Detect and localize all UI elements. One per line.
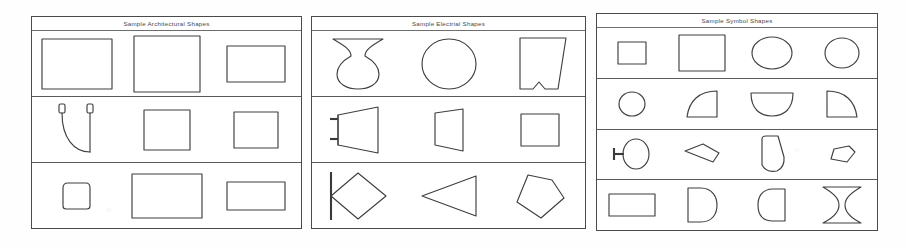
shape-cell-half-circle-down[interactable] [737, 79, 807, 129]
panel-rows-electrical [312, 31, 585, 228]
shape-cell-triangle-left[interactable] [403, 163, 494, 228]
shape-row [312, 163, 585, 228]
shape-cell-hourglass[interactable] [807, 180, 877, 230]
shape-cell-ellipse-wide[interactable] [737, 28, 807, 78]
shape-row [32, 163, 301, 228]
shape-row [312, 31, 585, 97]
shape-cell-circle-small[interactable] [597, 79, 667, 129]
shape-cell-diamond-with-bar[interactable] [312, 163, 403, 228]
shape-row [32, 97, 301, 163]
shape-cell-quarter-round-left[interactable] [667, 79, 737, 129]
shape-cell-square-medium[interactable] [122, 97, 212, 162]
shape-cell-bowtie-over-ellipse[interactable] [312, 31, 403, 96]
shape-cell-pentagon-kite[interactable] [494, 163, 585, 228]
shape-library-sheet: Sample Architectural Shapes [0, 0, 906, 250]
shape-cell-notched-rectangle[interactable] [32, 163, 122, 228]
shape-cell-ellipse[interactable] [403, 31, 494, 96]
panel-title-symbol: Sample Symbol Shapes [597, 14, 877, 28]
shape-cell-rectangle-small[interactable] [211, 31, 301, 96]
panel-rows-symbol [597, 28, 877, 230]
shape-cell-horn-with-leads[interactable] [312, 97, 403, 162]
shape-cell-ellipse-round[interactable] [807, 28, 877, 78]
shape-cell-wedge-kite[interactable] [667, 130, 737, 180]
panel-title-electrical: Sample Electrial Shapes [312, 17, 585, 31]
shape-cell-small-blob[interactable] [807, 130, 877, 180]
shape-cell-square-small[interactable] [597, 28, 667, 78]
shape-cell-d-shape-right[interactable] [667, 180, 737, 230]
shape-cell-trapezoid[interactable] [403, 97, 494, 162]
panel-symbol: Sample Symbol Shapes [596, 13, 878, 231]
shape-cell-rectangle-large[interactable] [32, 31, 122, 96]
shape-cell-notched-trapezoid[interactable] [494, 31, 585, 96]
shape-cell-square[interactable] [494, 97, 585, 162]
shape-cell-ellipse-with-stem[interactable] [597, 130, 667, 180]
shape-cell-rectangle-tall[interactable] [122, 31, 212, 96]
panel-electrical: Sample Electrial Shapes [311, 16, 586, 229]
shape-row [32, 31, 301, 97]
panel-architectural: Sample Architectural Shapes [31, 16, 302, 229]
shape-cell-rounded-wedge[interactable] [737, 130, 807, 180]
shape-row [597, 180, 877, 230]
shape-row [312, 97, 585, 163]
shape-cell-square-small[interactable] [211, 97, 301, 162]
shape-cell-d-shape-left[interactable] [737, 180, 807, 230]
shape-cell-quarter-round-right[interactable] [807, 79, 877, 129]
shape-row [597, 130, 877, 181]
shape-cell-square-large[interactable] [667, 28, 737, 78]
shape-cell-rectangle[interactable] [597, 180, 667, 230]
shape-cell-rectangle-flat[interactable] [211, 163, 301, 228]
shape-cell-rectangle-wide[interactable] [122, 163, 212, 228]
shape-row [597, 79, 877, 130]
shape-cell-door-swing-arc[interactable] [32, 97, 122, 162]
panel-title-architectural: Sample Architectural Shapes [32, 17, 301, 31]
shape-row [597, 28, 877, 79]
panel-rows-architectural [32, 31, 301, 228]
